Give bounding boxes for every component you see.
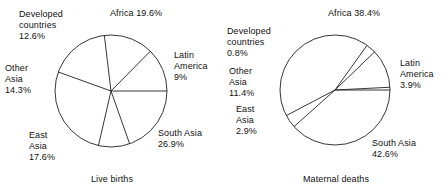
slice-label-africa: Africa 38.4% xyxy=(328,8,380,19)
chart-live-births: Africa 19.6% Latin America 9% South Asia… xyxy=(0,0,224,195)
slice-label-other-asia: Other Asia 14.3% xyxy=(5,63,31,97)
chart-maternal-deaths: Africa 38.4% Latin America 3.9% South As… xyxy=(224,0,448,195)
slice-label-other-asia: Other Asia 11.4% xyxy=(229,66,254,100)
slice-label-east-asia: East Asia 2.9% xyxy=(236,104,257,138)
slice-label-south-asia: South Asia 26.9% xyxy=(158,128,202,150)
slice-label-africa: Africa 19.6% xyxy=(110,8,162,19)
slice-label-developed-countries: Developed countries 12.6% xyxy=(19,9,63,43)
pie-chart-figure: Africa 19.6% Latin America 9% South Asia… xyxy=(0,0,448,195)
slice-label-south-asia: South Asia 42.6% xyxy=(372,138,416,160)
chart-caption-live-births: Live births xyxy=(0,174,224,184)
slice-label-east-asia: East Asia 17.6% xyxy=(29,130,55,164)
chart-caption-maternal-deaths: Maternal deaths xyxy=(224,174,448,184)
slice-label-developed-countries: Developed countries 0.8% xyxy=(227,26,271,60)
slice-label-latin-america: Latin America 3.9% xyxy=(400,58,434,92)
slice-label-latin-america: Latin America 9% xyxy=(174,50,208,84)
